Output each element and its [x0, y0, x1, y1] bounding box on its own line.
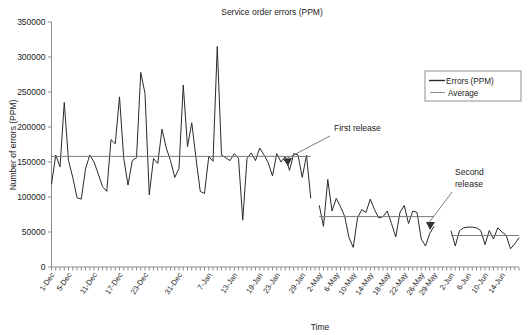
y-tick-label: 0 — [41, 262, 46, 272]
chart-container: Service order errors (PPM) Number of err… — [0, 0, 532, 335]
y-tick-label: 200000 — [17, 122, 46, 132]
y-tick-label: 300000 — [17, 52, 46, 62]
y-tick-label: 350000 — [17, 17, 46, 27]
second-release-label-line1: Second — [455, 167, 484, 177]
y-tick-label: 50000 — [22, 227, 46, 237]
chart-title: Service order errors (PPM) — [221, 7, 323, 17]
legend-label-errors: Errors (PPM) — [446, 77, 494, 86]
second-release-label-line2: release — [455, 179, 483, 189]
chart-legend: Errors (PPM) Average — [425, 71, 521, 101]
x-axis-title: Time — [311, 322, 330, 332]
legend-label-average: Average — [448, 89, 479, 98]
service-order-errors-chart: Service order errors (PPM) Number of err… — [0, 0, 532, 335]
y-tick-label: 100000 — [17, 192, 46, 202]
y-axis-title: Number of errors (PPM) — [8, 99, 18, 190]
first-release-label: First release — [334, 123, 381, 133]
y-tick-label: 150000 — [17, 157, 46, 167]
y-tick-label: 250000 — [17, 87, 46, 97]
